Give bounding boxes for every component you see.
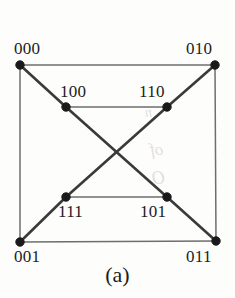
graph-node-100 xyxy=(62,103,70,111)
node-label-100: 100 xyxy=(60,83,86,100)
graph-node-010 xyxy=(211,61,219,69)
figure-caption: (a) xyxy=(0,262,235,288)
graph-node-000 xyxy=(16,61,24,69)
node-label-010: 010 xyxy=(186,40,212,57)
graph-node-101 xyxy=(163,193,171,201)
node-label-111: 111 xyxy=(58,203,83,220)
graph-node-110 xyxy=(163,103,171,111)
figure-panel: of O n 000010100110111101001011 (a) xyxy=(0,0,235,298)
graph-node-001 xyxy=(16,238,24,246)
edges-group xyxy=(20,65,216,242)
node-label-101: 101 xyxy=(140,203,166,220)
graph-edge-011-001 xyxy=(20,241,216,242)
graph-edge-010-011 xyxy=(215,65,216,241)
node-label-000: 000 xyxy=(14,40,40,57)
graph-edge-011-101 xyxy=(167,197,216,241)
node-label-110: 110 xyxy=(139,83,165,100)
graph-node-111 xyxy=(62,193,70,201)
graph-node-011 xyxy=(212,237,220,245)
graph-edge-010-110 xyxy=(167,65,215,107)
